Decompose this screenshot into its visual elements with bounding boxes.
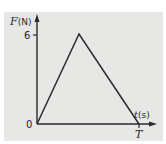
force-curve bbox=[37, 34, 139, 124]
x-axis-arrow-icon bbox=[149, 122, 157, 127]
y-axis-arrow-icon bbox=[35, 14, 40, 22]
origin-label: 0 bbox=[26, 119, 32, 130]
force-time-graph: F(N) 6 0 t(s) T bbox=[0, 0, 166, 144]
x-tick-label-T: T bbox=[135, 128, 144, 141]
y-tick-label-6: 6 bbox=[24, 30, 30, 41]
y-axis-label: F(N) bbox=[9, 15, 31, 28]
x-axis-label: t(s) bbox=[134, 109, 150, 120]
